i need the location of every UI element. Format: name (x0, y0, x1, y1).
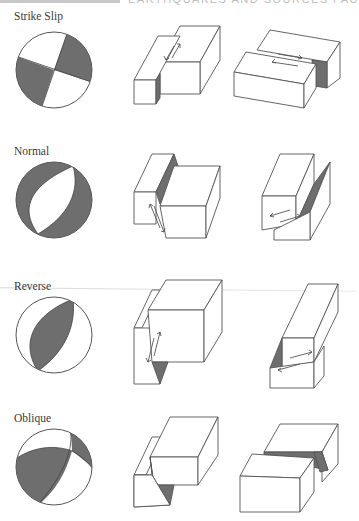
row-label-oblique: Oblique (14, 412, 51, 424)
beachball-normal-icon (14, 160, 94, 240)
block-diagram-reverse-1-icon (130, 280, 230, 390)
beachball-strike-slip-icon (14, 30, 94, 110)
block-diagram-normal-2-icon (258, 150, 348, 250)
block-diagram-reverse-2-icon (268, 284, 353, 394)
row-label-reverse: Reverse (14, 280, 51, 292)
row-label-normal: Normal (14, 145, 49, 157)
block-diagram-strike-slip-1-icon (130, 22, 230, 117)
block-diagram-normal-1-icon (130, 148, 230, 248)
page-top-rule (0, 0, 120, 3)
block-diagram-oblique-2-icon (238, 418, 348, 518)
beachball-oblique-icon (14, 427, 94, 507)
block-diagram-strike-slip-2-icon (232, 26, 347, 96)
block-diagram-oblique-1-icon (130, 415, 230, 520)
row-label-strike-slip: Strike Slip (14, 10, 63, 22)
beachball-reverse-icon (14, 295, 94, 375)
running-header: EARTHQUAKES AND SOURCES FAU (128, 0, 359, 5)
